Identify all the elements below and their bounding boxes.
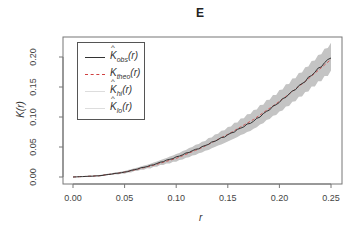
x-tick-label: 0.15 xyxy=(219,193,237,203)
y-tick-label: 0.10 xyxy=(28,108,38,126)
legend-swatch-lo xyxy=(85,108,105,109)
y-tick-label: 0.15 xyxy=(28,78,38,96)
x-tick-label: 0.00 xyxy=(64,193,82,203)
legend-label-lo: Klo(r) xyxy=(110,101,132,114)
x-axis xyxy=(73,184,331,188)
y-tick-label: 0.20 xyxy=(28,48,38,66)
legend-item-lo: Klo(r) xyxy=(78,100,146,118)
chart-title: E xyxy=(196,6,204,20)
legend-swatch-obs xyxy=(85,57,105,58)
x-tick-label: 0.25 xyxy=(322,193,340,203)
y-tick-label: 0.05 xyxy=(28,138,38,156)
x-axis-label: r xyxy=(199,212,202,223)
x-tick-label: 0.05 xyxy=(116,193,134,203)
y-axis-label: K(r) xyxy=(15,101,26,118)
legend-swatch-theo xyxy=(85,74,105,75)
legend: Kobs(r) Ktheo(r) Khi(r) Klo(r) xyxy=(77,42,145,120)
legend-swatch-hi xyxy=(85,91,105,92)
x-tick-label: 0.10 xyxy=(167,193,185,203)
legend-item-obs: Kobs(r) xyxy=(78,49,146,67)
y-axis xyxy=(59,57,63,177)
legend-label-obs: Kobs(r) xyxy=(110,50,138,63)
y-tick-label: 0.00 xyxy=(28,168,38,186)
x-tick-label: 0.20 xyxy=(271,193,289,203)
